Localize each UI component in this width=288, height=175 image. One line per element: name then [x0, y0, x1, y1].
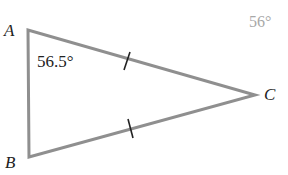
vertex-label-c: C [264, 86, 275, 103]
tick-mark-ac [124, 52, 130, 70]
angle-a-label: 56.5° [37, 53, 74, 70]
vertex-label-b: B [5, 154, 15, 171]
triangle-figure [0, 0, 288, 175]
triangle-abc [28, 30, 255, 157]
vertex-label-a: A [4, 22, 14, 39]
faded-angle-label: 56° [249, 14, 271, 30]
